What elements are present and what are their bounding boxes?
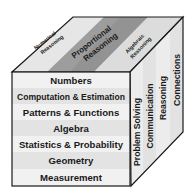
side-label-communication: Communication [145,84,155,149]
front-label-computation: Computation & Estimation [17,91,125,102]
front-label-numbers: Numbers [50,75,92,86]
front-label-statistics: Statistics & Probability [19,139,124,150]
front-label-algebra: Algebra [53,123,89,134]
side-label-problem-solving: Problem Solving [132,98,142,166]
math-standards-cube: Numerical Reasoning Proportional Reasoni… [0,0,194,194]
front-face: Numbers Computation & Estimation Pattern… [12,72,130,186]
side-label-reasoning: Reasoning [158,76,168,120]
front-label-geometry: Geometry [49,155,94,166]
front-label-measurement: Measurement [40,172,103,183]
front-label-patterns: Patterns & Functions [23,107,119,118]
side-label-connections: Connections [172,54,182,106]
